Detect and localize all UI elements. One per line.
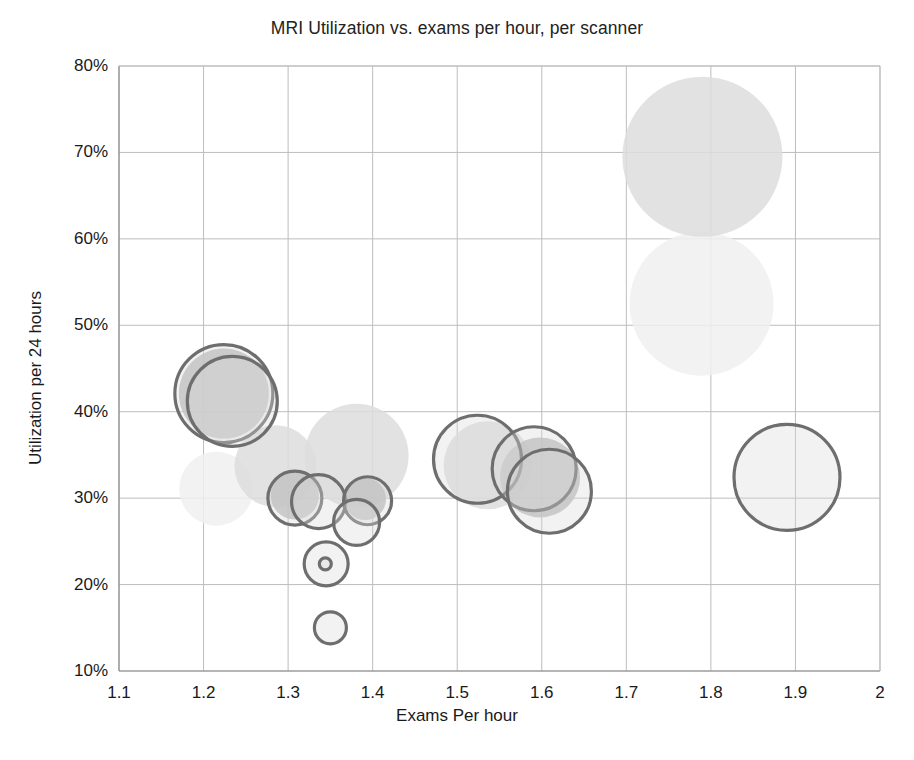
bubble-bubble-8[interactable]	[319, 558, 331, 570]
y-tick-label: 70%	[44, 142, 108, 162]
x-tick-label: 1.6	[530, 683, 554, 703]
x-axis-title: Exams Per hour	[0, 706, 914, 726]
bubble-bubble-2[interactable]	[187, 356, 277, 446]
plot-area	[0, 0, 914, 760]
y-tick-label: 30%	[44, 488, 108, 508]
x-tick-label: 2	[875, 683, 884, 703]
x-tick-label: 1.2	[192, 683, 216, 703]
bubble-faint-2[interactable]	[630, 232, 774, 376]
y-tick-label: 40%	[44, 402, 108, 422]
x-tick-label: 1.7	[615, 683, 639, 703]
x-tick-label: 1.5	[445, 683, 469, 703]
x-tick-label: 1.4	[361, 683, 385, 703]
bubble-bubble-13[interactable]	[734, 424, 840, 530]
x-tick-label: 1.8	[699, 683, 723, 703]
bubbles-layer	[175, 77, 840, 644]
bubble-bubble-6[interactable]	[334, 499, 380, 545]
y-tick-label: 60%	[44, 229, 108, 249]
y-tick-label: 20%	[44, 575, 108, 595]
bubble-chart: MRI Utilization vs. exams per hour, per …	[0, 0, 914, 760]
x-tick-label: 1.1	[107, 683, 131, 703]
bubble-bubble-12[interactable]	[507, 449, 591, 533]
series-outlined-bubbles	[175, 345, 840, 644]
y-tick-label: 50%	[44, 315, 108, 335]
y-tick-label: 10%	[44, 661, 108, 681]
bubble-bubble-9[interactable]	[314, 612, 346, 644]
y-tick-label: 80%	[44, 56, 108, 76]
x-tick-label: 1.9	[784, 683, 808, 703]
y-axis-title: Utilization per 24 hours	[26, 248, 46, 508]
x-tick-label: 1.3	[276, 683, 300, 703]
bubble-ghost-4[interactable]	[622, 77, 782, 237]
